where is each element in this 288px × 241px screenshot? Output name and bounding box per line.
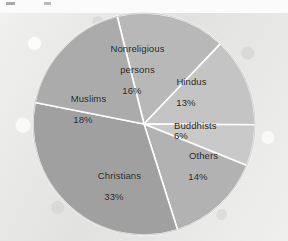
slice-label-buddhists-text: Buddhists bbox=[174, 120, 217, 131]
slice-label-hindus-text: Hindus bbox=[176, 76, 206, 87]
slice-value-hindus: 13% bbox=[157, 98, 215, 109]
pie-chart-figure: Nonreligious persons 16% Hindus 13% Budd… bbox=[0, 0, 288, 241]
slice-label-christians-text: Christians bbox=[98, 170, 141, 181]
slice-label-muslims-text: Muslims bbox=[71, 93, 107, 104]
slice-label-others-text: Others bbox=[189, 150, 218, 161]
slice-label-nonreligious-persons-line1: Nonreligious bbox=[110, 43, 164, 54]
slice-label-christians: Christians 33% bbox=[76, 160, 152, 223]
slice-value-christians: 33% bbox=[76, 192, 152, 203]
slice-value-muslims: 18% bbox=[52, 115, 114, 126]
slice-label-muslims: Muslims 18% bbox=[52, 83, 114, 146]
slice-label-others: Others 14% bbox=[170, 140, 226, 203]
slice-value-others: 14% bbox=[170, 172, 226, 183]
slice-label-nonreligious-persons-line2: persons bbox=[120, 64, 155, 75]
